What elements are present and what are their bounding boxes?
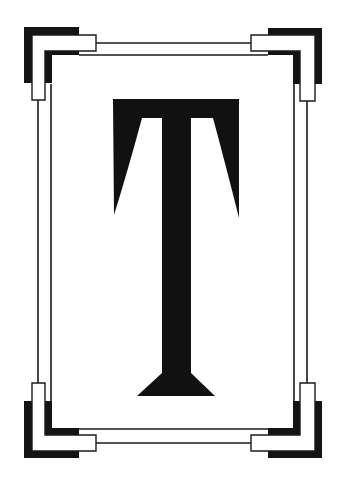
corner-ornament-top-left bbox=[24, 27, 96, 100]
letter-t-glyph bbox=[113, 99, 239, 396]
decorative-initial-frame: T bbox=[0, 0, 337, 482]
corner-ornament-bottom-right bbox=[251, 383, 322, 458]
corner-ornament-bottom-left bbox=[24, 383, 96, 458]
corner-ornament-top-right bbox=[251, 28, 322, 101]
frame-artwork bbox=[0, 0, 337, 482]
